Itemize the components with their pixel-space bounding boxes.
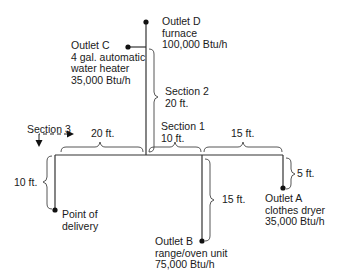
delivery-label: Point of delivery	[62, 209, 98, 232]
main-right-length: 15 ft.	[231, 128, 254, 140]
outlet-b-length: 15 ft.	[222, 194, 245, 206]
section3-label: Section 3	[27, 124, 71, 136]
outlet-b-label: Outlet B range/oven unit 75,000 Btu/h	[155, 236, 227, 271]
outlet-c-label: Outlet C 4 gal. automatic water heater 3…	[71, 40, 145, 86]
outlet-a-label: Outlet A clothes dryer 35,000 Btu/h	[265, 193, 325, 228]
main-left-length: 20 ft.	[91, 128, 114, 140]
brace-outlet-b	[205, 159, 214, 241]
delivery-dot	[52, 207, 57, 212]
section2-label: Section 2 20 ft.	[165, 86, 209, 109]
brace-15ft-right	[204, 142, 282, 152]
brace-outlet-a	[286, 158, 295, 189]
outlet-d-label: Outlet D furnace 100,000 Btu/h	[162, 16, 227, 51]
section1-label: Section 1 10 ft.	[161, 121, 205, 144]
brace-section2	[149, 49, 158, 152]
outlet-d-dot	[143, 19, 148, 24]
outlet-a-length: 5 ft.	[297, 168, 315, 180]
riser-length: 10 ft.	[14, 177, 37, 189]
brace-riser	[43, 156, 52, 209]
outlet-a-dot	[280, 185, 285, 190]
section3-arrowhead-down	[36, 140, 43, 147]
brace-20ft-left	[61, 142, 143, 152]
